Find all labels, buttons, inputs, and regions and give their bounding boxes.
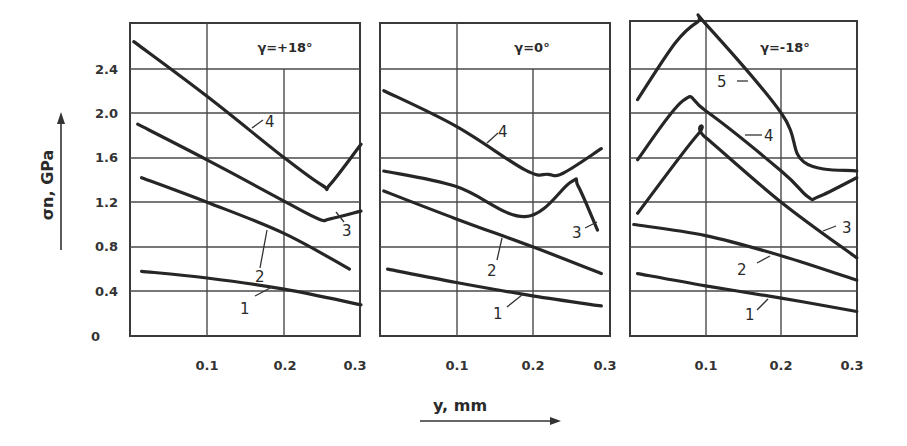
y-axis-title: σn, GPa <box>38 112 65 250</box>
curve-3 <box>384 171 598 230</box>
y-tick: 0.8 <box>95 239 118 254</box>
curve-3 <box>638 126 857 258</box>
panel-title: γ=-18° <box>760 40 810 55</box>
x-tick: 0.3 <box>593 358 616 373</box>
x-axis-ticks: 0.1 0.2 0.3 0.1 0.2 0.3 0.1 0.2 0.3 <box>195 358 863 373</box>
curve-label-3: 3 <box>572 224 582 242</box>
curves <box>134 42 361 305</box>
y-tick: 2.0 <box>95 106 118 121</box>
curve-label-1: 1 <box>240 300 250 318</box>
curve-label-4: 4 <box>764 127 774 145</box>
x-tick: 0.3 <box>343 358 366 373</box>
y-tick: 0.4 <box>95 284 118 299</box>
curve-label-2: 2 <box>255 268 265 286</box>
y-tick: 0 <box>91 329 100 344</box>
curve-1 <box>142 271 361 305</box>
curve-labels: 1 2 3 4 <box>487 123 597 323</box>
curve-labels: 1 2 3 4 <box>240 113 352 318</box>
panel-title: γ=0° <box>514 40 549 55</box>
curve-label-5: 5 <box>717 73 727 91</box>
x-axis-label: y, mm <box>433 396 487 415</box>
x-tick: 0.2 <box>521 358 544 373</box>
panel-gamma-plus-18: γ=+18° 1 2 3 4 <box>130 23 361 336</box>
x-tick: 0.2 <box>769 358 792 373</box>
curve-label-4: 4 <box>498 123 508 141</box>
x-axis-title: y, mm <box>420 396 561 425</box>
curve-4 <box>384 91 602 176</box>
x-tick: 0.1 <box>694 358 717 373</box>
panel-gamma-0: γ=0° 1 2 3 4 <box>380 23 610 336</box>
curve-label-3: 3 <box>342 222 352 240</box>
curve-4 <box>134 42 361 190</box>
y-tick: 2.4 <box>95 62 118 77</box>
curve-label-1: 1 <box>745 306 755 324</box>
curve-label-4: 4 <box>265 113 275 131</box>
arrow-head-icon <box>57 112 65 124</box>
curve-label-2: 2 <box>487 262 497 280</box>
y-tick: 1.2 <box>95 195 118 210</box>
curve-4 <box>638 97 857 200</box>
curve-label-3: 3 <box>842 219 852 237</box>
x-tick: 0.3 <box>840 358 863 373</box>
x-tick: 0.1 <box>195 358 218 373</box>
curve-label-1: 1 <box>493 305 503 323</box>
arrow-head-icon <box>550 417 561 425</box>
panel-gamma-minus-18: γ=-18° 1 2 3 4 5 <box>630 15 857 336</box>
x-tick: 0.1 <box>445 358 468 373</box>
y-axis-ticks: 2.4 2.0 1.6 1.2 0.8 0.4 0 <box>91 62 118 344</box>
panel-title: γ=+18° <box>257 40 312 55</box>
y-axis-label: σn, GPa <box>38 150 57 221</box>
x-tick: 0.2 <box>273 358 296 373</box>
curve-5 <box>638 15 857 171</box>
curve-2 <box>142 178 350 269</box>
curve-label-2: 2 <box>737 261 747 279</box>
y-tick: 1.6 <box>95 150 118 165</box>
curve-3 <box>138 124 361 220</box>
curve-labels: 1 2 3 4 5 <box>717 73 852 324</box>
stress-distribution-chart: 2.4 2.0 1.6 1.2 0.8 0.4 0 σn, GPa γ=+18°… <box>0 0 907 446</box>
